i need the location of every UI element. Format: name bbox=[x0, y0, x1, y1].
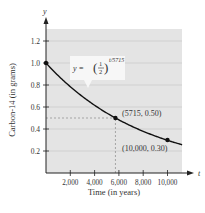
equation-paren-right: ) bbox=[104, 60, 108, 75]
x-tick-label: 10,000 bbox=[158, 179, 178, 187]
x-tick-label: 6,000 bbox=[111, 179, 128, 187]
y-axis-label: Carbon-14 (in grams) bbox=[7, 63, 17, 137]
y-tick-label: 0.2 bbox=[31, 147, 41, 156]
decay-chart: y t 0.20.40.60.81.01.2 2,0004,0006,0008,… bbox=[0, 0, 205, 213]
point-label-half-life: (5715, 0.50) bbox=[122, 109, 162, 118]
y-tick-label: 1.2 bbox=[31, 37, 41, 46]
equation-numerator: 1 bbox=[99, 60, 102, 67]
x-axis-label: Time (in years) bbox=[88, 187, 140, 197]
data-point bbox=[113, 116, 117, 120]
x-tick-label: 4,000 bbox=[87, 179, 104, 187]
data-point bbox=[165, 138, 169, 142]
y-tick-label: 0.6 bbox=[31, 103, 41, 112]
x-tick-label: 2,000 bbox=[62, 179, 79, 187]
y-tick-label: 0.4 bbox=[31, 125, 41, 134]
x-axis-arrow-icon bbox=[187, 171, 194, 176]
point-label-10000: (10,000, 0.30) bbox=[122, 144, 168, 153]
y-axis-arrow-icon bbox=[44, 17, 49, 24]
data-point bbox=[44, 61, 48, 65]
equation-denominator: 2 bbox=[99, 68, 102, 75]
equation-paren-left: ( bbox=[93, 60, 97, 75]
y-axis-variable: y bbox=[42, 7, 47, 16]
x-tick-label: 8,000 bbox=[135, 179, 152, 187]
y-tick-label: 1.0 bbox=[31, 59, 41, 68]
x-axis-variable: t bbox=[198, 169, 201, 178]
equation-prefix: y = bbox=[72, 64, 84, 73]
y-tick-label: 0.8 bbox=[31, 81, 41, 90]
equation-exponent: t/5715 bbox=[109, 57, 124, 63]
